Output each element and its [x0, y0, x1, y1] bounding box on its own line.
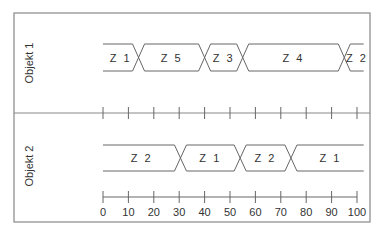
state-label: Z 5 — [161, 52, 183, 64]
axis-tick-label: 0 — [100, 206, 106, 218]
state-label: Z 1 — [110, 52, 132, 64]
axis-tick-label: 30 — [173, 206, 185, 218]
axis-tick-label: 40 — [198, 206, 210, 218]
state-label: Z 3 — [213, 52, 235, 64]
state-label: Z 2 — [131, 152, 153, 164]
axis-tick-label: 10 — [122, 206, 134, 218]
axis-tick-label: 60 — [249, 206, 261, 218]
axis-tick-label: 50 — [224, 206, 236, 218]
object-label: Objekt 1 — [23, 43, 35, 84]
state-label: Z 1 — [319, 152, 341, 164]
state-label: Z 4 — [283, 52, 305, 64]
state-label: Z 1 — [199, 152, 221, 164]
axis-tick-label: 80 — [300, 206, 312, 218]
state-label: Z 2 — [346, 52, 368, 64]
axis-tick-label: 100 — [348, 206, 366, 218]
object-label: Objekt 2 — [23, 146, 35, 187]
state-band: Z 1Z 5Z 3Z 4Z 2 — [103, 44, 368, 71]
timing-diagram: Objekt 1Z 1Z 5Z 3Z 4Z 2Objekt 2Z 2Z 1Z 2… — [0, 0, 382, 234]
axis-tick-label: 90 — [325, 206, 337, 218]
state-label: Z 2 — [255, 152, 277, 164]
axis-tick-label: 70 — [275, 206, 287, 218]
state-band: Z 2Z 1Z 2Z 1 — [103, 145, 364, 171]
axis-tick-label: 20 — [148, 206, 160, 218]
